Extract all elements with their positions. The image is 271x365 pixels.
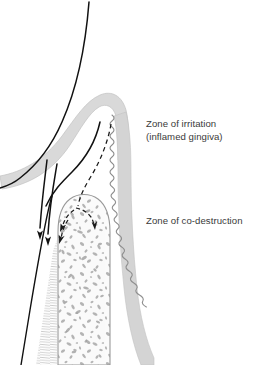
root-surface-band <box>114 112 154 365</box>
alveolar-bone <box>58 195 110 365</box>
gingiva-band <box>0 93 129 189</box>
anatomical-illustration <box>0 0 271 365</box>
periodontal-zones-figure: Zone of irritation(inflamed gingiva) Zon… <box>0 0 271 365</box>
dashed-spread-pathway <box>78 124 111 206</box>
pdl-fiber-hatching <box>30 240 57 365</box>
